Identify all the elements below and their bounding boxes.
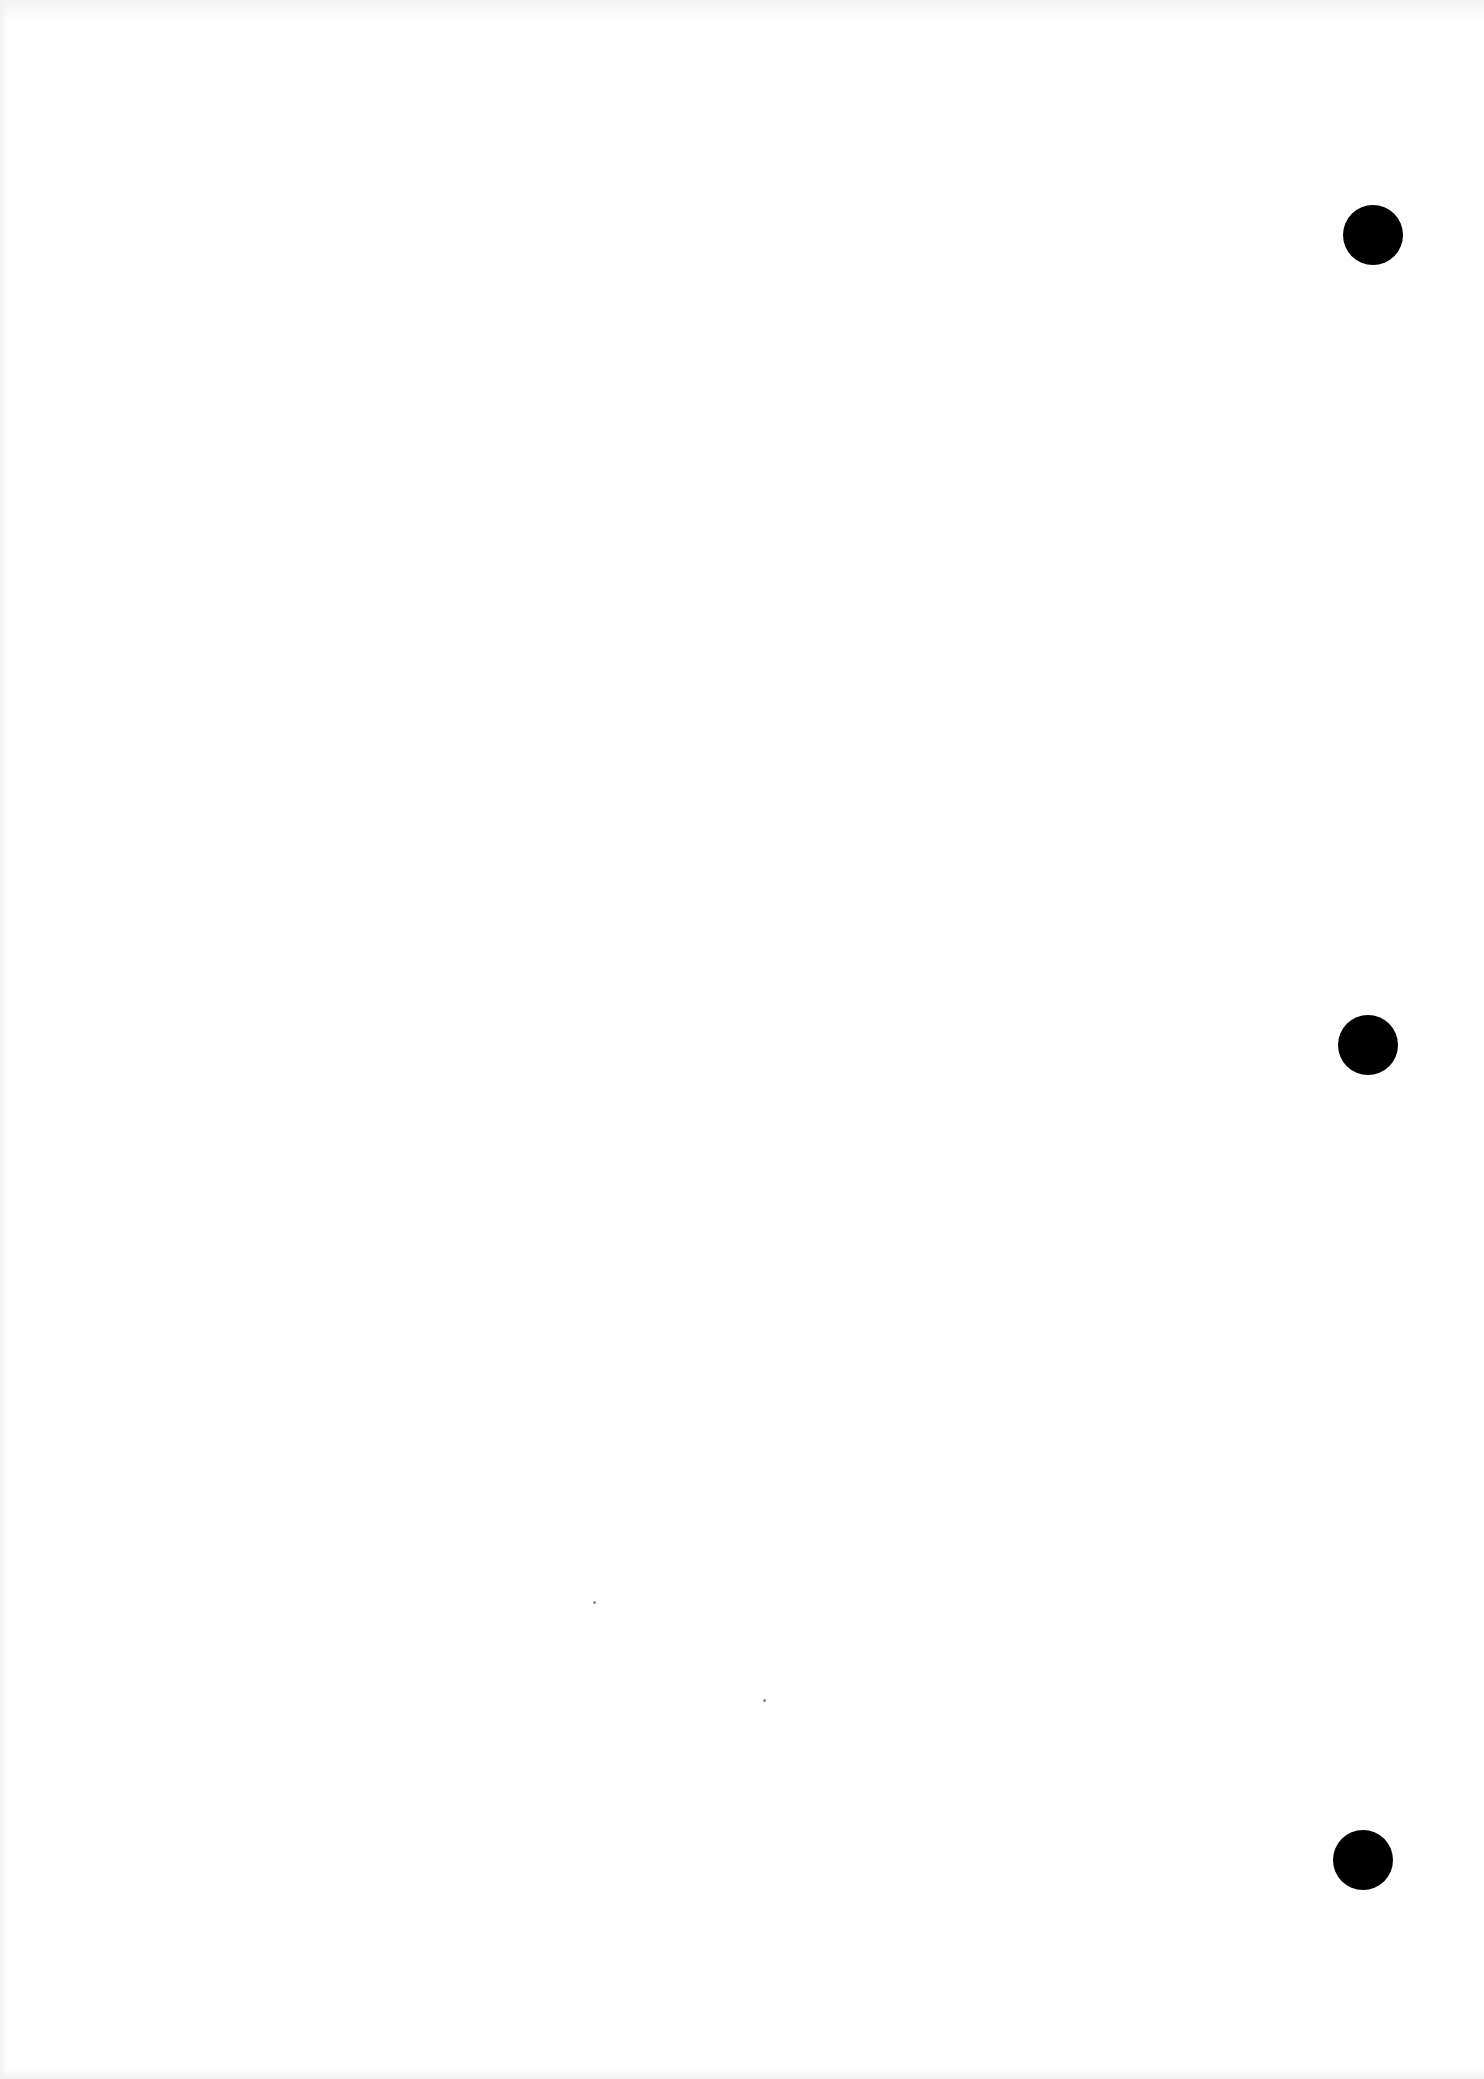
scan-edge-shadow-bottom (0, 2069, 1484, 2079)
punch-hole-bottom (1333, 1830, 1393, 1890)
dust-speck (763, 1699, 766, 1702)
scan-edge-shadow-top (0, 0, 1484, 22)
blank-page (0, 0, 1484, 2079)
punch-hole-middle (1338, 1015, 1398, 1075)
scan-edge-shadow-left (0, 0, 8, 2079)
dust-speck (593, 1601, 596, 1604)
punch-hole-top (1343, 205, 1403, 265)
